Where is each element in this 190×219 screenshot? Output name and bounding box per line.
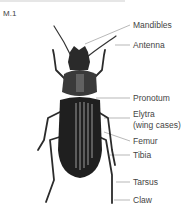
label-tarsus: Tarsus <box>133 178 158 187</box>
label-mandibles: Mandibles <box>133 21 172 30</box>
label-femur: Femur <box>133 137 158 146</box>
label-tibia: Tibia <box>133 151 151 160</box>
label-elytra: Elytra <box>133 110 155 119</box>
label-pronotum: Pronotum <box>133 94 170 103</box>
beetle-illustration <box>0 0 190 219</box>
label-claw: Claw <box>133 196 152 205</box>
label-antenna: Antenna <box>133 41 165 50</box>
label-elytra-subtitle: (wing cases) <box>133 121 181 130</box>
